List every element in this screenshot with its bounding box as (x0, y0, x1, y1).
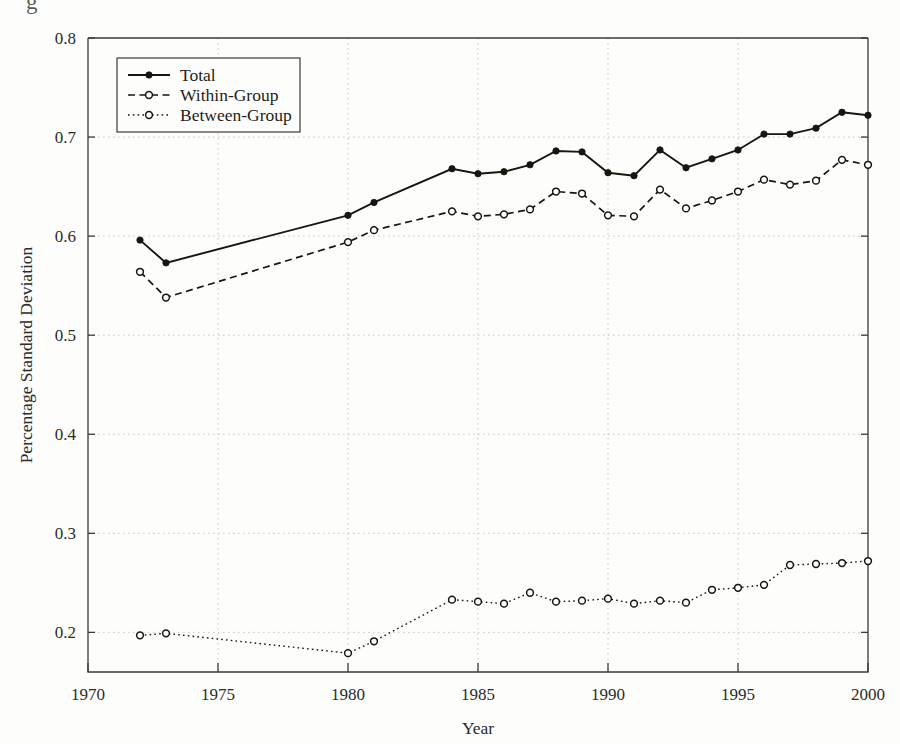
data-point (137, 632, 144, 639)
data-point (605, 212, 612, 219)
y-tick-label: 0.7 (55, 128, 77, 147)
data-point (865, 558, 872, 565)
data-point (553, 188, 560, 195)
x-tick-label: 1975 (201, 685, 235, 704)
data-point (163, 630, 170, 637)
data-point (761, 176, 768, 183)
data-point (553, 148, 559, 154)
series-within-group (137, 156, 872, 300)
data-point (735, 584, 742, 591)
data-point (137, 268, 144, 275)
data-point (683, 205, 690, 212)
data-point (761, 131, 767, 137)
data-point (527, 206, 534, 213)
data-point (709, 586, 716, 593)
data-point (839, 109, 845, 115)
data-point (813, 125, 819, 131)
y-tick-label: 0.3 (55, 524, 76, 543)
data-point (449, 166, 455, 172)
data-point (631, 600, 638, 607)
data-point (475, 598, 482, 605)
data-point (371, 638, 378, 645)
data-point (657, 186, 664, 193)
data-point (579, 190, 586, 197)
data-point (449, 208, 456, 215)
data-point (345, 239, 352, 246)
x-axis-title: Year (462, 718, 494, 738)
legend-label: Between-Group (180, 105, 292, 125)
data-point (865, 112, 871, 118)
data-series (137, 109, 872, 656)
data-point (631, 213, 638, 220)
y-tick-label: 0.2 (55, 623, 76, 642)
x-tick-label: 1985 (461, 685, 495, 704)
data-point (527, 162, 533, 168)
data-point (163, 260, 169, 266)
data-point (501, 211, 508, 218)
data-point (683, 165, 689, 171)
data-point (787, 181, 794, 188)
data-point (527, 589, 534, 596)
data-point (501, 169, 507, 175)
series-total (137, 109, 871, 266)
data-point (735, 147, 741, 153)
data-point (371, 227, 378, 234)
legend-marker (146, 112, 153, 119)
data-point (761, 581, 768, 588)
data-point (475, 171, 481, 177)
data-point (371, 199, 377, 205)
legend-marker (146, 92, 153, 99)
data-point (475, 213, 482, 220)
data-point (345, 212, 351, 218)
data-point (579, 149, 585, 155)
x-tick-label: 1970 (71, 685, 105, 704)
legend-marker (146, 72, 152, 78)
legend-label: Within-Group (180, 85, 279, 105)
x-tick-label: 2000 (851, 685, 885, 704)
data-point (605, 595, 612, 602)
x-tick-label: 1990 (591, 685, 625, 704)
data-point (163, 294, 170, 301)
series-between-group (137, 558, 872, 657)
line-chart: 0.20.30.40.50.60.70.81970197519801985199… (0, 0, 900, 744)
chart-legend: TotalWithin-GroupBetween-Group (117, 58, 300, 132)
data-point (553, 598, 560, 605)
data-point (813, 561, 820, 568)
legend-label: Total (180, 65, 216, 85)
data-point (657, 597, 664, 604)
data-point (787, 562, 794, 569)
data-point (787, 131, 793, 137)
y-tick-label: 0.5 (55, 326, 76, 345)
x-tick-label: 1980 (331, 685, 365, 704)
y-axis-title: Percentage Standard Deviation (16, 246, 36, 463)
data-point (605, 170, 611, 176)
data-point (709, 156, 715, 162)
grid-lines (88, 38, 868, 672)
data-point (683, 599, 690, 606)
data-point (839, 156, 846, 163)
data-point (501, 600, 508, 607)
y-tick-label: 0.8 (55, 29, 76, 48)
data-point (865, 161, 872, 168)
y-tick-label: 0.6 (55, 227, 76, 246)
data-point (345, 650, 352, 657)
data-point (579, 597, 586, 604)
data-point (657, 147, 663, 153)
data-point (449, 596, 456, 603)
data-point (813, 177, 820, 184)
data-point (631, 173, 637, 179)
data-point (839, 560, 846, 567)
y-tick-label: 0.4 (55, 425, 77, 444)
data-point (137, 237, 143, 243)
data-point (709, 197, 716, 204)
data-point (735, 188, 742, 195)
x-tick-label: 1995 (721, 685, 755, 704)
